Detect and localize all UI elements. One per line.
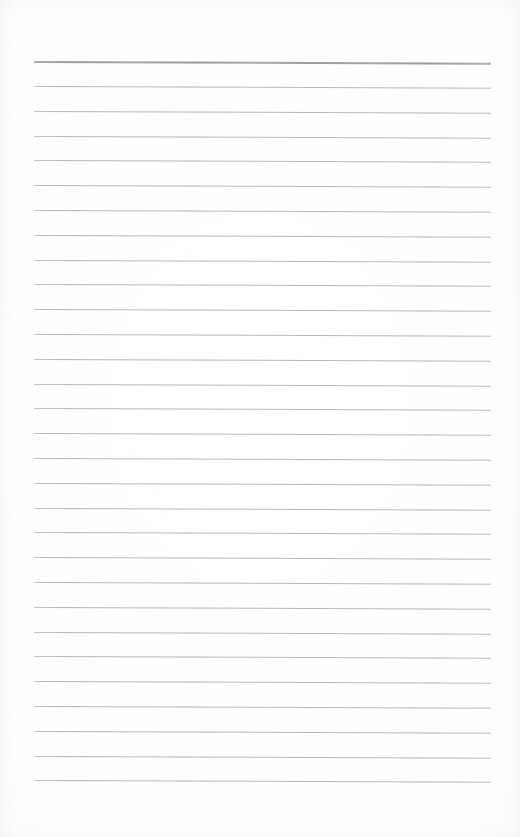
rule-line: [34, 632, 491, 635]
rule-line: [34, 508, 491, 511]
rule-line: [34, 359, 491, 362]
rule-line: [34, 185, 491, 188]
rule-line: [34, 731, 491, 734]
rule-line: [34, 433, 491, 436]
rule-line: [34, 334, 491, 337]
rule-line: [34, 607, 491, 610]
rule-line: [34, 483, 491, 486]
rule-line: [34, 532, 491, 535]
rule-line: [34, 284, 491, 287]
rule-line: [34, 160, 491, 163]
rule-line: [34, 756, 491, 759]
rule-line: [34, 136, 491, 139]
scanned-page: [0, 0, 520, 837]
ruled-writing-area[interactable]: [0, 0, 520, 837]
rule-line: [34, 408, 491, 411]
rule-line: [34, 111, 491, 114]
rule-line: [34, 309, 491, 312]
rule-line: [34, 235, 491, 238]
rule-line: [34, 780, 491, 783]
header-rule-line: [34, 61, 491, 65]
rule-line: [34, 582, 491, 585]
rule-line: [34, 384, 491, 387]
rule-line: [34, 260, 491, 263]
rule-line: [34, 458, 491, 461]
rule-line: [34, 86, 491, 89]
rule-line: [34, 706, 491, 709]
rule-line: [34, 210, 491, 213]
rule-line: [34, 681, 491, 684]
rule-line: [34, 557, 491, 560]
rule-line: [34, 656, 491, 659]
